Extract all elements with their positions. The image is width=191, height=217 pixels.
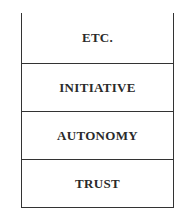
block-initiative: INITIATIVE bbox=[22, 63, 173, 111]
block-label: TRUST bbox=[75, 176, 120, 192]
block-label: INITIATIVE bbox=[59, 80, 135, 96]
block-autonomy: AUTONOMY bbox=[22, 111, 173, 159]
block-label: ETC. bbox=[82, 30, 113, 46]
block-trust: TRUST bbox=[22, 159, 173, 207]
block-etc: ETC. bbox=[22, 13, 173, 63]
stacked-block-diagram: ETC. INITIATIVE AUTONOMY TRUST bbox=[21, 13, 174, 208]
block-label: AUTONOMY bbox=[57, 128, 138, 144]
